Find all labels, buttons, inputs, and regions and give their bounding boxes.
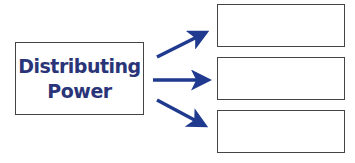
arrow-down-icon — [157, 100, 202, 124]
arrow-up-icon — [157, 34, 203, 57]
target-box-3[interactable] — [217, 110, 345, 153]
target-box-1[interactable] — [217, 4, 345, 47]
target-box-2[interactable] — [217, 57, 345, 100]
